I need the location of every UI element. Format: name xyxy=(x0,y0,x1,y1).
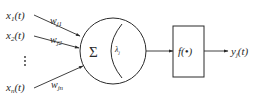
svg-text:x1(t): x1(t) xyxy=(5,9,25,23)
weight-wj2: wj2 xyxy=(50,34,63,47)
weight-wjn: wjn xyxy=(51,79,64,92)
ellipsis-dots xyxy=(24,56,26,66)
threshold-lambda: λj xyxy=(114,45,120,55)
input-x1: x1(t) xyxy=(5,9,25,23)
input-xn: xn(t) xyxy=(5,81,25,95)
output-yj: yj(t) xyxy=(230,45,249,59)
activation-function-label: f(•) xyxy=(178,45,193,58)
weight-wj1: wj1 xyxy=(50,15,62,28)
input-x2: x2(t) xyxy=(5,29,25,43)
neuron-diagram: x1(t) wj1 x2(t) wj2 xn(t) wjn Σ λj xyxy=(0,0,260,102)
svg-text:xn(t): xn(t) xyxy=(5,81,25,95)
sum-symbol: Σ xyxy=(89,44,98,60)
svg-text:x2(t): x2(t) xyxy=(5,29,25,43)
